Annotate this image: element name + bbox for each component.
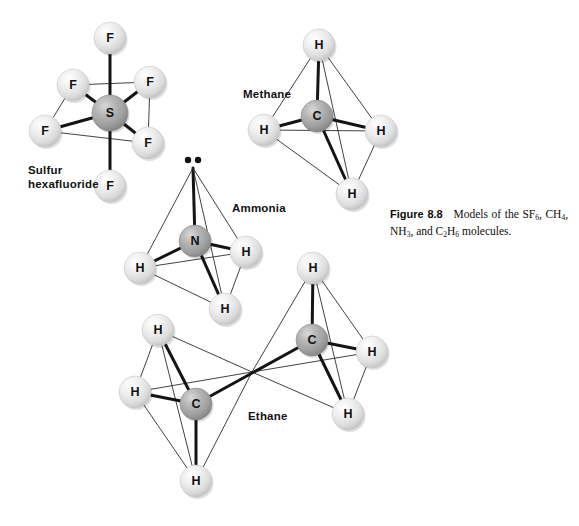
atom-symbol-label: H [259, 123, 268, 137]
ethane-atom-h: H [142, 314, 176, 348]
ammonia-lone-pair-dot [195, 157, 201, 163]
methane-atom-h: H [248, 114, 282, 148]
ethane-atom-c: C [296, 324, 330, 358]
ethane-atom-h: H [297, 252, 331, 286]
ethane-atom-h: H [119, 376, 153, 410]
atom-symbol-label: H [220, 302, 229, 316]
atom-symbol-label: H [130, 385, 139, 399]
sulfur-hexafluoride-atom-f: F [134, 66, 168, 100]
molecule-models-canvas: SFFFFFFCHHHHNHHHCCHHHHHH [0, 0, 579, 526]
atom-symbol-label: F [144, 136, 152, 150]
ammonia-atom-h: H [209, 293, 243, 327]
atom-symbol-label: F [106, 31, 114, 45]
ethane-atom-h: H [356, 336, 390, 370]
atom-symbol-label: F [146, 75, 154, 89]
sulfur-hexafluoride-atom-f: F [132, 127, 166, 161]
ethane-bond [196, 340, 312, 404]
atom-symbol-label: H [191, 474, 200, 488]
sulfur-hexafluoride-atom-f: F [94, 170, 128, 204]
atom-symbol-label: H [347, 187, 356, 201]
sulfur-hexafluoride-atom-f: F [57, 69, 91, 103]
atom-symbol-label: H [153, 323, 162, 337]
sulfur-hexafluoride-atom-f: F [29, 115, 63, 149]
atom-symbol-label: C [191, 397, 200, 411]
atom-symbol-label: C [312, 109, 321, 123]
atom-symbol-label: F [69, 78, 77, 92]
atom-symbol-label: N [190, 234, 199, 248]
atom-symbol-label: F [106, 179, 114, 193]
molecule-label-methane: Methane [243, 87, 291, 101]
molecule-label-sulfur-hexafluoride: Sulfur hexafluoride [28, 163, 99, 191]
molecule-label-ammonia: Ammonia [232, 201, 286, 215]
atom-symbol-label: H [376, 124, 385, 138]
atom-symbol-label: H [241, 245, 250, 259]
atom-symbol-label: H [135, 261, 144, 275]
figure-caption: Figure 8.8 Models of the SF6, CH4, NH3, … [390, 208, 568, 241]
figure-caption-number: Figure 8.8 [390, 208, 443, 220]
atom-symbol-label: H [343, 407, 352, 421]
atom-symbol-label: C [307, 333, 316, 347]
atom-symbol-label: H [308, 261, 317, 275]
methane-atom-h: H [365, 115, 399, 149]
atom-symbol-label: H [314, 38, 323, 52]
methane-atom-c: C [301, 100, 335, 134]
ammonia-atom-h: H [230, 236, 264, 270]
ammonia-atom-h: H [124, 252, 158, 286]
ethane-atom-c: C [180, 388, 214, 422]
ammonia-lone-pair-dot [185, 157, 191, 163]
methane-atom-h: H [336, 178, 370, 212]
molecule-label-ethane: Ethane [248, 409, 288, 423]
atom-symbol-label: S [106, 106, 114, 120]
figure-8-8: SFFFFFFCHHHHNHHHCCHHHHHH Sulfur hexafluo… [0, 0, 579, 526]
ethane-atom-h: H [180, 465, 214, 499]
ethane-atom-h: H [332, 398, 366, 432]
atom-symbol-label: H [367, 345, 376, 359]
sulfur-hexafluoride-atom-f: F [94, 22, 128, 56]
methane-atom-h: H [303, 29, 337, 63]
atom-symbol-label: F [41, 124, 49, 138]
